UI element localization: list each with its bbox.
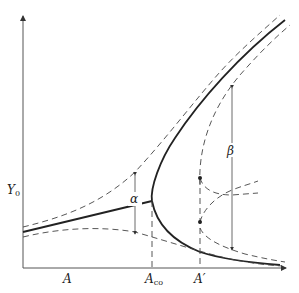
x-tick-a-prime-label: A′ (193, 272, 206, 286)
lower-stable-branch (152, 201, 280, 265)
x-tick-a-label: A (62, 272, 72, 286)
beta-label: β (226, 144, 234, 158)
x-tick-a-prime: A′ (193, 272, 206, 286)
transition-trajectory-upper (200, 178, 258, 195)
x-tick-a-co-label: A (144, 272, 154, 286)
lower-branch-outer-dashed (200, 228, 285, 262)
bifurcation-diagram: α β Y0 A Aco A′ (0, 0, 299, 293)
y-axis-label: Y0 (7, 183, 20, 198)
upper-stable-branch (152, 20, 285, 201)
x-tick-a-co: Aco (144, 272, 163, 287)
upper-branch-inner-dashed (200, 25, 290, 185)
transition-trajectory-lower (200, 181, 258, 222)
a-prime-lower-point (198, 220, 202, 224)
alpha-label: α (130, 192, 138, 206)
x-tick-a: A (62, 272, 72, 286)
y-axis-label-sub: 0 (15, 189, 20, 198)
x-tick-a-co-sub: co (154, 278, 163, 287)
a-prime-upper-point (198, 176, 202, 180)
